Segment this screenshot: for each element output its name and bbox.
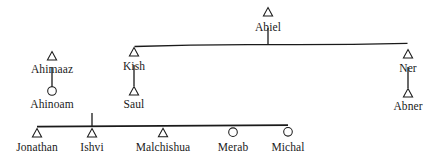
node-abner-male-triangle	[403, 89, 412, 98]
node-ishvi-male-triangle	[87, 129, 96, 138]
kinship-diagram: Abiel Ahimaaz Kish Ner Ahinoam Saul Abne…	[0, 0, 436, 165]
node-michal-female-circle	[284, 128, 293, 137]
node-jonathan-male-triangle	[32, 129, 41, 138]
label-michal: Michal	[271, 142, 304, 154]
label-malchishua: Malchishua	[136, 142, 191, 154]
node-ahinoam-female-circle	[48, 87, 57, 96]
label-abner: Abner	[393, 101, 422, 113]
label-ner: Ner	[399, 63, 417, 75]
node-malchishua-male-triangle	[158, 128, 167, 137]
node-abiel-male-triangle	[263, 8, 272, 17]
link-top-sibling-bar	[135, 43, 408, 46]
label-kish: Kish	[123, 61, 145, 73]
label-merab: Merab	[218, 142, 249, 154]
label-ahinoam: Ahinoam	[30, 99, 74, 111]
label-ishvi: Ishvi	[80, 142, 104, 154]
label-ahimaaz: Ahimaaz	[31, 64, 73, 76]
label-jonathan: Jonathan	[16, 142, 58, 154]
node-saul-male-triangle	[129, 87, 138, 96]
label-saul: Saul	[124, 99, 145, 111]
link-children-bar	[37, 125, 288, 126]
node-ner-male-triangle	[403, 50, 412, 59]
label-abiel: Abiel	[255, 22, 281, 34]
node-ahimaaz-male-triangle	[47, 52, 56, 61]
node-merab-female-circle	[229, 128, 238, 137]
node-kish-male-triangle	[129, 48, 138, 57]
